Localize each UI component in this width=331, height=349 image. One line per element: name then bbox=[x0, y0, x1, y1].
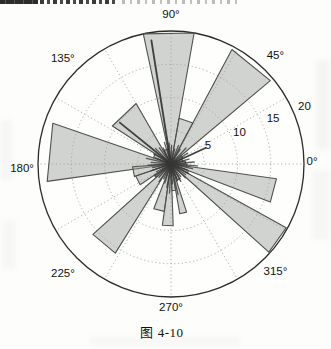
angle-tick-label: 135° bbox=[51, 52, 75, 64]
angle-tick-label: 45° bbox=[267, 49, 284, 61]
radial-tick-label: 10 bbox=[233, 126, 246, 138]
radial-tick-label: 5 bbox=[205, 139, 211, 151]
angle-tick-label: 270° bbox=[159, 301, 183, 313]
angle-tick-label: 0° bbox=[307, 155, 318, 167]
angle-tick-label: 180° bbox=[10, 162, 34, 174]
radial-tick-label: 15 bbox=[267, 112, 280, 124]
angle-tick-label: 225° bbox=[51, 267, 75, 279]
scanned-page: 51015200°45°90°135°180°225°270°315° 图 4-… bbox=[0, 0, 331, 349]
angle-tick-label: 90° bbox=[162, 8, 179, 20]
angle-tick-label: 315° bbox=[264, 265, 288, 277]
figure-caption: 图 4-10 bbox=[0, 322, 324, 341]
polar-rose-chart: 51015200°45°90°135°180°225°270°315° bbox=[0, 0, 331, 349]
radial-tick-label: 20 bbox=[298, 100, 311, 112]
